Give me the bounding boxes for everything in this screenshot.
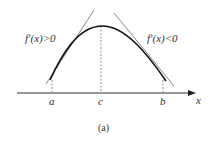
point-label-a: a (49, 95, 55, 107)
x-axis-label: x (195, 94, 201, 106)
right-tangent-line (114, 13, 174, 86)
left-derivative-annotation: f′(x)>0 (25, 32, 56, 45)
concave-function-diagram: x a c b f′(x)>0 f′(x)<0 (a) (0, 0, 210, 146)
point-label-c: c (98, 95, 103, 107)
figure-caption: (a) (98, 122, 109, 134)
x-axis-arrow-icon (188, 90, 196, 96)
right-derivative-annotation: f′(x)<0 (147, 32, 178, 45)
point-label-b: b (160, 95, 166, 107)
